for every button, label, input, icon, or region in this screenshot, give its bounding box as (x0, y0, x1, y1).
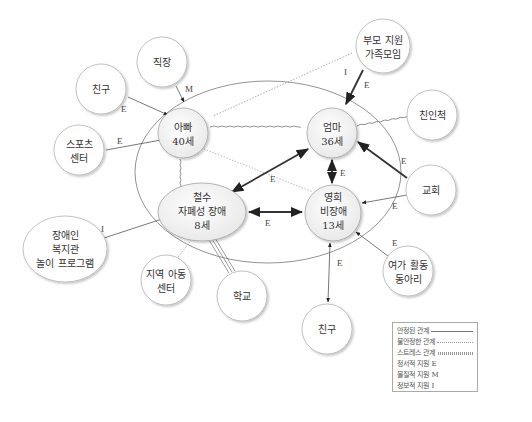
svg-text:놀이 프로그램: 놀이 프로그램 (36, 258, 93, 269)
edge-dad-mom (210, 126, 301, 127)
label-church-younghee: E (392, 201, 398, 211)
node-relatives: 친인척 (407, 90, 457, 140)
edge-dad-chulsoo (180, 159, 181, 189)
node-work: 직장 (137, 37, 187, 87)
label-leisure-younghee: E (392, 238, 398, 248)
edge-school-chulsoo (209, 238, 235, 273)
household-members: 아빠 40세 엄마 36세 철수 자폐성 장애 8세 영희 비장애 13세 (158, 108, 361, 241)
node-sports-center: 스포츠 센터 (54, 125, 104, 175)
node-church: 교회 (406, 165, 456, 215)
svg-text:철수: 철수 (193, 192, 211, 203)
edge-parentsupport-mom (346, 70, 363, 104)
svg-text:복지관: 복지관 (52, 244, 79, 255)
edge-parentsupport-dad (213, 53, 352, 116)
wavy-line-swatch (437, 352, 473, 355)
svg-text:친인척: 친인척 (419, 110, 446, 121)
legend-stress: 스트레스 관계 (397, 348, 473, 359)
legend-stable: 안정된 관계 (397, 326, 473, 337)
legend-label: 안정된 관계 (397, 326, 429, 337)
edge-friend-dad (128, 97, 168, 115)
label-parentsupport-mom: E (364, 80, 370, 90)
edge-labels: M E E I E E E E I E E E E (101, 67, 407, 268)
legend-label: 물질적 지원 M (397, 370, 439, 381)
label-sports-dad: E (117, 136, 123, 146)
node-school: 학교 (217, 271, 267, 321)
svg-text:동아리: 동아리 (395, 274, 422, 285)
svg-text:8세: 8세 (194, 220, 209, 231)
legend-emotional: 정서적 지원 E (397, 359, 473, 370)
label-chulsoo-younghee: E (265, 218, 271, 228)
label-mom-chulsoo: E (270, 174, 276, 184)
svg-text:직장: 직장 (153, 57, 171, 68)
svg-text:센터: 센터 (157, 283, 175, 294)
node-community-center: 지역 아동 센터 (141, 255, 191, 305)
svg-text:비장애: 비장애 (320, 206, 347, 217)
legend-label: 정서적 지원 E (397, 359, 437, 370)
svg-text:장애인: 장애인 (52, 230, 79, 241)
node-leisure-club: 여가 활동 동아리 (383, 246, 433, 296)
svg-text:36세: 36세 (321, 136, 343, 147)
svg-text:친구: 친구 (318, 324, 336, 335)
svg-text:영희: 영희 (324, 192, 342, 203)
label-church-mom: E (401, 156, 407, 166)
node-dad: 아빠 40세 (158, 108, 208, 158)
legend-box: 안정된 관계 불안정한 관계 스트레스 관계 정서적 지원 E 물질적 지원 M… (392, 322, 478, 392)
edge-church-younghee (362, 195, 407, 203)
svg-text:13세: 13세 (322, 220, 344, 231)
svg-text:40세: 40세 (172, 136, 194, 147)
node-mom: 엄마 36세 (307, 108, 357, 158)
svg-text:친구: 친구 (92, 84, 110, 95)
legend-label: 불안정한 관계 (397, 337, 435, 348)
edge-younghee-friend (328, 243, 330, 302)
node-friend-dad: 친구 (76, 64, 126, 114)
solid-line-swatch (431, 331, 473, 332)
legend-label: 스트레스 관계 (397, 348, 435, 359)
label-parentsupport-dad: I (344, 67, 347, 77)
svg-text:지역 아동: 지역 아동 (146, 269, 185, 280)
svg-text:아빠: 아빠 (174, 122, 192, 133)
node-chulsoo: 철수 자폐성 장애 8세 (158, 183, 246, 241)
label-work-dad: M (185, 84, 193, 94)
label-mom-younghee: E (340, 168, 346, 178)
node-welfare-center: 장애인 복지관 놀이 프로그램 (23, 216, 107, 282)
svg-text:교회: 교회 (422, 185, 440, 196)
svg-text:스포츠: 스포츠 (66, 139, 93, 150)
node-parent-support: 부모 지원 가족모임 (356, 19, 410, 73)
svg-text:여가 활동: 여가 활동 (388, 259, 427, 271)
edge-work-dad (176, 86, 184, 102)
svg-text:엄마: 엄마 (323, 122, 341, 133)
svg-text:가족모임: 가족모임 (365, 48, 401, 60)
legend-label: 정보적 지원 I (397, 381, 434, 392)
legend-informational: 정보적 지원 I (397, 381, 473, 392)
node-friend-younghee: 친구 (302, 304, 352, 354)
svg-text:부모 지원: 부모 지원 (363, 35, 402, 46)
node-younghee: 영희 비장애 13세 (305, 185, 361, 241)
legend-unstable: 불안정한 관계 (397, 337, 473, 348)
legend-material: 물질적 지원 M (397, 370, 473, 381)
svg-text:센터: 센터 (70, 153, 88, 164)
label-younghee-friend: E (337, 258, 343, 268)
dotted-line-swatch (437, 342, 473, 343)
svg-text:자폐성 장애: 자폐성 장애 (178, 206, 226, 217)
edge-welfare-chulsoo (104, 218, 165, 238)
edge-leisure-younghee (356, 232, 388, 256)
svg-text:학교: 학교 (233, 291, 251, 302)
label-friend-dad: E (121, 104, 127, 114)
